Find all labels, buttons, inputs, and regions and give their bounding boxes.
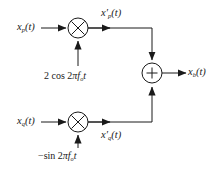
input-label-xp: xp(t)	[17, 22, 35, 33]
output-label-xb: xb(t)	[188, 67, 206, 78]
carrier-label-cosine: 2 cos 2πfot	[44, 71, 86, 81]
intermediate-label-xp-prime: x′p(t)	[101, 8, 121, 19]
intermediate-label-xq-prime: x′q(t)	[101, 130, 121, 141]
carrier-label-sine: −sin 2πfot	[38, 151, 76, 161]
quadrature-modulator-diagram: xp(t) x′p(t) xq(t) x′q(t) xb(t) 2 cos 2π…	[0, 0, 216, 171]
input-label-xq: xq(t)	[17, 116, 35, 127]
